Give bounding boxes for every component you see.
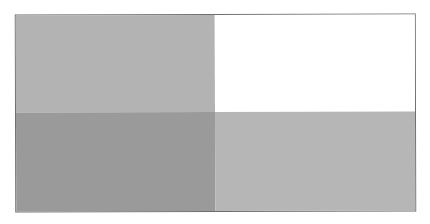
quadrant-grid [15,13,417,212]
quadrant-bottom-right [215,111,415,211]
quadrant-top-right [215,14,415,112]
quadrant-bottom-left [16,112,215,212]
quadrant-top-left [16,15,215,113]
